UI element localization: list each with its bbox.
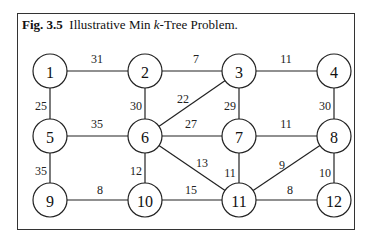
node-label: 10 xyxy=(137,193,153,210)
edge-weight-label: 12 xyxy=(130,164,142,178)
graph-diagram: 317112530222930352711351213119108158 123… xyxy=(0,0,377,242)
edge-weight-label: 25 xyxy=(35,99,47,113)
edge-weight-label: 30 xyxy=(130,99,142,113)
edge-weight-label: 15 xyxy=(185,183,197,197)
edge-weight-label: 35 xyxy=(35,164,47,178)
node-8: 8 xyxy=(317,119,351,153)
edge-weight-label: 35 xyxy=(91,117,103,131)
edge-weight-label: 7 xyxy=(193,52,199,66)
edge-weight-label: 10 xyxy=(319,166,331,180)
node-label: 7 xyxy=(235,129,243,146)
edge-weight-label: 29 xyxy=(224,99,236,113)
edge-weight-label: 8 xyxy=(287,183,293,197)
node-5: 5 xyxy=(33,119,67,153)
edge-weight-label: 22 xyxy=(177,92,189,106)
node-label: 6 xyxy=(141,129,149,146)
edge-weight-label: 8 xyxy=(97,183,103,197)
edge-weight-label: 31 xyxy=(91,52,103,66)
node-label: 4 xyxy=(330,64,338,81)
node-label: 3 xyxy=(235,64,243,81)
edge-weight-label: 11 xyxy=(280,52,292,66)
node-6: 6 xyxy=(128,119,162,153)
weights-layer: 317112530222930352711351213119108158 xyxy=(35,52,331,197)
edge-weight-label: 27 xyxy=(185,117,197,131)
node-label: 8 xyxy=(330,129,338,146)
edge-weight-label: 11 xyxy=(280,117,292,131)
node-label: 11 xyxy=(231,193,246,210)
edge-weight-label: 9 xyxy=(279,158,285,172)
node-3: 3 xyxy=(222,54,256,88)
node-10: 10 xyxy=(128,183,162,217)
node-label: 5 xyxy=(46,129,54,146)
edges-layer xyxy=(50,71,334,200)
node-4: 4 xyxy=(317,54,351,88)
node-12: 12 xyxy=(317,183,351,217)
node-2: 2 xyxy=(128,54,162,88)
node-label: 9 xyxy=(46,193,54,210)
node-1: 1 xyxy=(33,54,67,88)
edge-weight-label: 13 xyxy=(196,156,208,170)
node-label: 2 xyxy=(141,64,149,81)
node-7: 7 xyxy=(222,119,256,153)
node-9: 9 xyxy=(33,183,67,217)
node-label: 12 xyxy=(326,193,342,210)
node-11: 11 xyxy=(222,183,256,217)
node-label: 1 xyxy=(46,64,54,81)
edge-weight-label: 11 xyxy=(224,166,236,180)
edge-weight-label: 30 xyxy=(319,99,331,113)
